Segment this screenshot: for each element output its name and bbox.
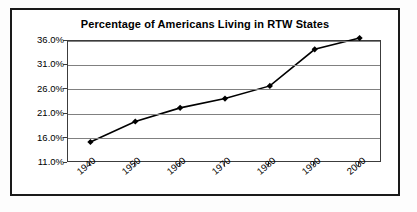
chart-container: Percentage of Americans Living in RTW St… xyxy=(0,0,417,212)
y-axis-tick-label: 21.0% xyxy=(37,108,64,118)
y-axis-tick-label: 26.0% xyxy=(37,84,64,94)
y-axis-tick-label: 11.0% xyxy=(38,157,64,167)
x-axis-tick-label: 1980 xyxy=(255,155,277,176)
x-axis-tick-label: 1950 xyxy=(120,155,142,176)
y-axis-tick-mark xyxy=(63,137,67,138)
y-axis-tick-label: 31.0% xyxy=(37,60,64,70)
axis-layer: 11.0%16.0%21.0%26.0%31.0%36.0%1940195019… xyxy=(0,0,417,212)
x-axis-tick-label: 1970 xyxy=(210,155,232,176)
x-axis-tick-label: 1960 xyxy=(165,155,187,176)
y-axis-tick-mark xyxy=(63,64,67,65)
y-axis-tick-mark xyxy=(63,162,67,163)
y-axis-tick-label: 16.0% xyxy=(37,133,64,143)
y-axis-tick-mark xyxy=(63,40,67,41)
x-axis-tick-label: 1990 xyxy=(300,155,322,176)
y-axis-tick-mark xyxy=(63,88,67,89)
x-axis-tick-label: 2000 xyxy=(345,155,367,176)
y-axis-tick-mark xyxy=(63,113,67,114)
y-axis-tick-label: 36.0% xyxy=(37,35,64,45)
x-axis-tick-label: 1940 xyxy=(75,155,97,176)
